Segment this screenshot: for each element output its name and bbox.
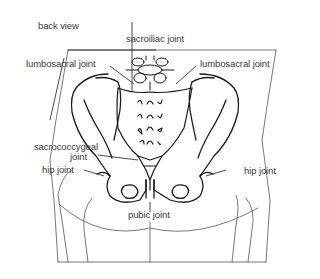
label-hip-joint-right: hip joint — [244, 166, 276, 176]
sacrum — [117, 88, 192, 190]
pubis — [97, 172, 213, 202]
label-sacroiliac-joint: sacroiliac joint — [126, 34, 184, 44]
label-hip-joint-left: hip joint — [42, 165, 74, 175]
label-sacrococcygeal-joint-line2: joint — [70, 152, 87, 162]
label-pubic-joint: pubic joint — [128, 210, 170, 220]
label-lumbosacral-joint-right: lumbosacral joint — [200, 59, 270, 69]
right-ilium — [189, 74, 238, 176]
leader-lines — [50, 22, 226, 212]
lumbar-vertebra — [126, 56, 174, 90]
label-lumbosacral-joint-left: lumbosacral joint — [26, 59, 96, 69]
view-label: back view — [38, 21, 79, 31]
